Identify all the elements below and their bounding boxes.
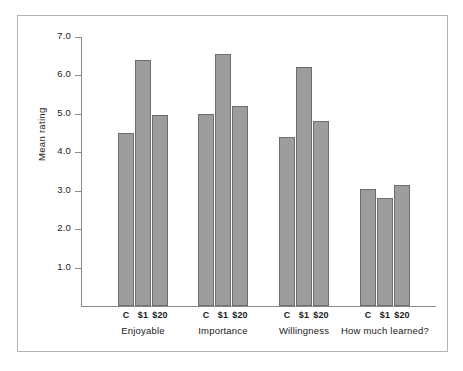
bar <box>279 137 295 306</box>
bar <box>215 54 231 306</box>
bar-condition-label: $20 <box>390 310 414 320</box>
y-axis-tick: 7.0 <box>75 37 81 38</box>
y-axis-tick-label: 2.0 <box>57 222 71 233</box>
y-axis-line <box>81 37 82 307</box>
bar-condition-label: $20 <box>309 310 333 320</box>
group-label: How much learned? <box>325 325 445 336</box>
figure-frame: 7.06.05.04.03.02.01.0 Mean rating C$1$20… <box>17 15 448 352</box>
y-axis-tick: 6.0 <box>75 75 81 76</box>
y-axis-tick-label: 5.0 <box>57 107 71 118</box>
bar <box>152 115 168 306</box>
bar <box>313 121 329 306</box>
bar-condition-label: $20 <box>148 310 172 320</box>
y-axis-tick: 3.0 <box>75 191 81 192</box>
y-axis-tick-label: 3.0 <box>57 184 71 195</box>
y-axis-tick: 4.0 <box>75 152 81 153</box>
y-axis-tick: 5.0 <box>75 114 81 115</box>
y-axis-tick-label: 1.0 <box>57 261 71 272</box>
bar <box>360 189 376 306</box>
bar-chart-plot-area: 7.06.05.04.03.02.01.0 Mean rating C$1$20… <box>18 16 449 353</box>
bar <box>198 114 214 307</box>
y-axis-tick-label: 7.0 <box>57 30 71 41</box>
x-axis-line <box>81 306 436 307</box>
y-axis-tick-label: 6.0 <box>57 68 71 79</box>
bar <box>118 133 134 306</box>
y-axis-tick-label: 4.0 <box>57 145 71 156</box>
bar <box>135 60 151 306</box>
y-axis-tick: 2.0 <box>75 229 81 230</box>
y-axis-title: Mean rating <box>36 147 47 161</box>
bar <box>296 67 312 306</box>
bar <box>394 185 410 306</box>
y-axis-tick: 1.0 <box>75 268 81 269</box>
bar-condition-label: $20 <box>228 310 252 320</box>
bar <box>377 198 393 306</box>
bar <box>232 106 248 306</box>
